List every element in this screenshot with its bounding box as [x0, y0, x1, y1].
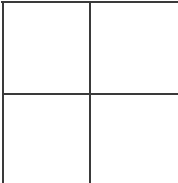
grid-cell-r1c2 — [91, 2, 178, 94]
center-vertical-line — [89, 1, 91, 183]
left-border-line — [2, 1, 4, 183]
grid-cell-r2c2 — [91, 96, 178, 183]
grid-cell-r1c1 — [3, 2, 89, 94]
center-horizontal-line — [2, 93, 178, 95]
grid-diagram — [0, 0, 178, 183]
grid-cell-r2c1 — [3, 96, 89, 183]
